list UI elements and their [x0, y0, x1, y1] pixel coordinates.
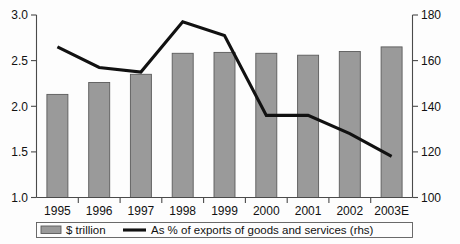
- bar-1997: [130, 74, 151, 197]
- bar-1999: [214, 52, 235, 197]
- right-tick-label-120: 120: [421, 145, 441, 159]
- bar-2000: [256, 53, 277, 197]
- bar-1996: [89, 83, 110, 198]
- left-tick-label-2.0: 2.0: [11, 100, 28, 114]
- x-label-2003E: 2003E: [374, 204, 409, 218]
- bar-2001: [298, 55, 319, 197]
- left-axis: 1.01.52.02.53.0: [11, 8, 36, 205]
- x-label-1998: 1998: [169, 204, 196, 218]
- right-axis: 100120140160180: [413, 8, 442, 205]
- right-tick-label-140: 140: [421, 100, 441, 114]
- left-tick-label-1.0: 1.0: [11, 191, 28, 205]
- left-axis-ticks: 1.01.52.02.53.0: [11, 8, 36, 205]
- x-axis-labels: 199519961997199819992000200120022003E: [44, 204, 409, 218]
- x-label-1995: 1995: [44, 204, 71, 218]
- legend-label-bar: $ trillion: [66, 224, 106, 236]
- bar-series: [47, 47, 402, 198]
- x-axis-ticks: [78, 198, 370, 204]
- x-label-2002: 2002: [336, 204, 363, 218]
- right-axis-ticks: 100120140160180: [413, 8, 442, 205]
- right-tick-label-160: 160: [421, 54, 441, 68]
- x-label-1999: 1999: [211, 204, 238, 218]
- x-label-1997: 1997: [128, 204, 155, 218]
- x-label-1996: 1996: [86, 204, 113, 218]
- bar-1998: [172, 53, 193, 197]
- left-tick-label-2.5: 2.5: [11, 54, 28, 68]
- left-tick-label-1.5: 1.5: [11, 145, 28, 159]
- bar-2003E: [381, 47, 402, 198]
- x-label-2001: 2001: [295, 204, 322, 218]
- chart-figure: 1.01.52.02.53.0 100120140160180 19951996…: [0, 0, 460, 244]
- chart-canvas: 1.01.52.02.53.0 100120140160180 19951996…: [0, 0, 460, 244]
- right-tick-label-100: 100: [421, 191, 441, 205]
- legend-swatch-bar: [41, 226, 61, 234]
- x-label-2000: 2000: [253, 204, 280, 218]
- bar-1995: [47, 94, 68, 197]
- bar-2002: [339, 52, 360, 198]
- left-tick-label-3.0: 3.0: [11, 8, 28, 22]
- right-tick-label-180: 180: [421, 8, 441, 22]
- chart-legend: $ trillionAs % of exports of goods and s…: [37, 223, 413, 238]
- legend-label-line: As % of exports of goods and services (r…: [151, 224, 374, 236]
- x-axis: 199519961997199819992000200120022003E: [37, 198, 413, 219]
